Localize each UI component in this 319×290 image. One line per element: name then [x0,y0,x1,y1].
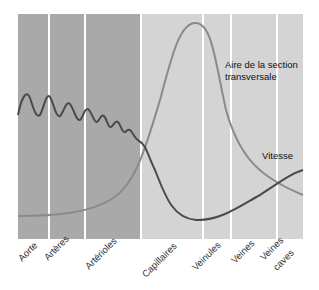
column-veinules [204,14,230,239]
xlabel-arterioles: Artérioles [83,235,119,271]
blood-flow-diagram: Aire de la section transversale Vitesse … [0,0,319,290]
xlabel-capillaires: Capillaires [140,240,179,279]
speed-label: Vitesse [262,150,293,161]
xlabel-veines: Veines [229,237,257,265]
xlabel-veinules: Veinules [190,239,223,272]
column-arteres [50,14,84,239]
xlabel-aorte: Aorte [16,240,40,264]
column-veines [232,14,276,239]
column-aorte [18,14,48,239]
area-label-line2: transversale [225,71,277,82]
column-veines-caves [278,14,303,239]
area-label-line1: Aire de la section [225,59,298,70]
